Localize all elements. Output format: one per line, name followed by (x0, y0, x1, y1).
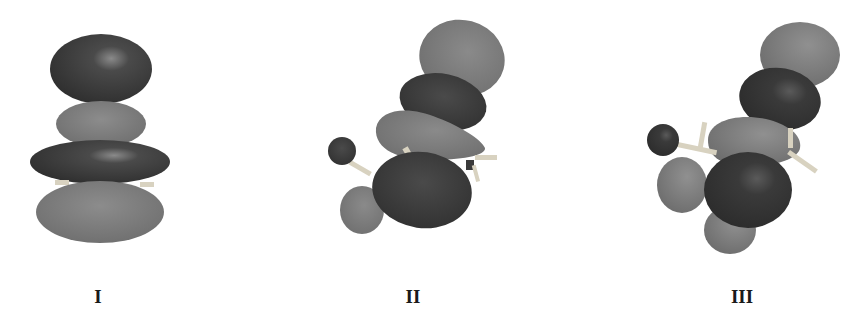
orbital-panel-2: II (310, 0, 530, 323)
orbital-panel-1: I (0, 0, 220, 323)
molecular-orbital-image-3 (630, 0, 862, 270)
dark-lobe (367, 145, 477, 234)
panel-label: II (406, 286, 421, 308)
dark-lobe (704, 152, 792, 228)
light-lobe (657, 157, 707, 213)
dark-lobe (328, 137, 356, 165)
panel-label: III (731, 286, 753, 308)
dark-lobe (50, 34, 152, 104)
molecular-orbital-image-1 (0, 0, 220, 270)
light-lobe (36, 181, 164, 243)
panel-label: I (94, 286, 101, 308)
orbital-panel-3: III (630, 0, 862, 323)
molecular-orbital-image-2 (310, 0, 530, 270)
dark-lobe (647, 124, 679, 156)
dark-lobe (30, 140, 170, 184)
